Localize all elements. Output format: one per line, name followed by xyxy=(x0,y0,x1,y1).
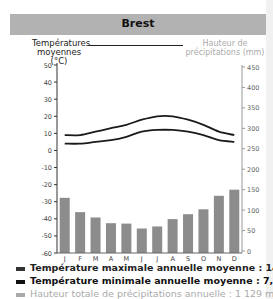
right-tick-label: 250 xyxy=(247,145,259,153)
precip-bar xyxy=(229,190,239,253)
legend-swatch-icon xyxy=(16,293,25,297)
left-tick-label: 40 xyxy=(44,79,52,87)
precip-bar xyxy=(168,219,178,253)
left-tick-label: 30 xyxy=(44,96,52,104)
tmax-line xyxy=(65,116,235,135)
legend-swatch-icon xyxy=(16,267,25,271)
tmin-line xyxy=(65,130,235,144)
precip-bar xyxy=(198,209,208,253)
right-tick-label: 100 xyxy=(247,207,259,215)
legend-item-tmin: Température minimale annuelle moyenne : … xyxy=(16,275,273,286)
left-tick-label: 50 xyxy=(44,62,52,70)
left-tick-label: 0 xyxy=(48,147,52,155)
legend-item-precip: Hauteur totale de précipitations annuell… xyxy=(16,288,273,299)
right-tick-label: 400 xyxy=(247,84,259,92)
precip-bar xyxy=(60,198,70,253)
precip-bar xyxy=(137,229,147,253)
left-tick-label: -50 xyxy=(41,232,52,240)
left-tick-label: 20 xyxy=(44,113,52,121)
legend-label: Température minimale annuelle moyenne : … xyxy=(30,275,273,286)
precip-bar xyxy=(91,217,101,253)
left-tick-label: -60 xyxy=(41,250,52,258)
left-tick-label: 10 xyxy=(44,130,52,138)
left-tick-label: -30 xyxy=(41,198,52,206)
right-tick-label: 200 xyxy=(247,166,259,174)
precip-bar xyxy=(183,214,193,253)
precip-bar xyxy=(121,224,131,253)
right-tick-label: 150 xyxy=(247,186,259,194)
legend-label: Température maximale annuelle moyenne : … xyxy=(30,262,273,273)
legend-item-tmax: Température maximale annuelle moyenne : … xyxy=(16,262,273,273)
precip-bar xyxy=(75,212,85,253)
legend-swatch-icon xyxy=(16,280,25,284)
precip-bar xyxy=(106,223,116,253)
right-tick-label: 350 xyxy=(247,104,259,112)
right-tick-label: 0 xyxy=(247,248,251,256)
right-tick-label: 50 xyxy=(247,227,255,235)
precip-bar xyxy=(152,226,162,253)
precip-bar xyxy=(214,196,224,253)
left-tick-label: -40 xyxy=(41,215,52,223)
climate-chart: 50403020100-10-20-30-40-50-6045040035030… xyxy=(0,0,273,299)
right-tick-label: 450 xyxy=(247,64,259,72)
legend-label: Hauteur totale de précipitations annuell… xyxy=(30,288,273,299)
left-tick-label: -20 xyxy=(41,181,52,189)
right-tick-label: 300 xyxy=(247,125,259,133)
left-tick-label: -10 xyxy=(41,164,52,172)
